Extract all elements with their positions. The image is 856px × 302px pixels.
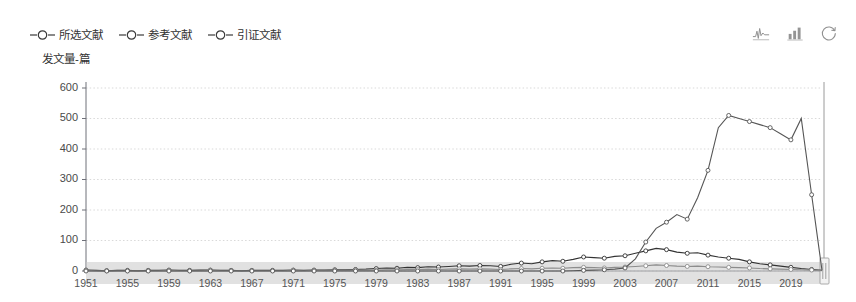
datazoom-slider[interactable] (86, 82, 829, 284)
data-point[interactable] (768, 263, 772, 267)
data-point[interactable] (436, 269, 440, 273)
y-axis-labels: 0100200300400500600 (60, 81, 78, 276)
data-point[interactable] (519, 269, 523, 273)
data-point[interactable] (623, 254, 627, 258)
data-point[interactable] (333, 269, 337, 273)
x-tick-label: 1975 (323, 277, 347, 289)
data-point[interactable] (271, 269, 275, 273)
data-point[interactable] (499, 269, 503, 273)
data-point[interactable] (810, 268, 814, 272)
data-point[interactable] (706, 253, 710, 257)
data-point[interactable] (582, 255, 586, 259)
data-point[interactable] (789, 138, 793, 142)
data-point[interactable] (747, 260, 751, 264)
data-point[interactable] (602, 268, 606, 272)
data-point[interactable] (747, 120, 751, 124)
data-point[interactable] (706, 265, 710, 269)
data-point[interactable] (105, 269, 109, 273)
data-point[interactable] (146, 269, 150, 273)
data-point[interactable] (188, 269, 192, 273)
x-tick-label: 1979 (365, 277, 389, 289)
x-tick-label: 2007 (655, 277, 679, 289)
data-point[interactable] (644, 249, 648, 253)
x-tick-label: 1951 (74, 277, 98, 289)
x-tick-label: 1995 (530, 277, 554, 289)
data-point[interactable] (727, 256, 731, 260)
x-tick-label: 1983 (406, 277, 430, 289)
x-tick-label: 2019 (779, 277, 803, 289)
data-point[interactable] (727, 113, 731, 117)
data-point[interactable] (561, 259, 565, 263)
x-tick-label: 2003 (613, 277, 637, 289)
data-point[interactable] (208, 269, 212, 273)
data-point[interactable] (810, 193, 814, 197)
axes (82, 82, 828, 271)
data-point[interactable] (582, 268, 586, 272)
data-point[interactable] (768, 267, 772, 271)
x-tick-label: 1971 (282, 277, 306, 289)
y-tick-label: 200 (60, 203, 78, 215)
x-tick-label: 1991 (489, 277, 513, 289)
x-tick-label: 1963 (199, 277, 223, 289)
data-point[interactable] (623, 266, 627, 270)
data-point[interactable] (229, 269, 233, 273)
data-point[interactable] (665, 220, 669, 224)
data-point[interactable] (706, 168, 710, 172)
data-point[interactable] (685, 264, 689, 268)
data-point[interactable] (747, 266, 751, 270)
x-tick-label: 2015 (738, 277, 762, 289)
data-point[interactable] (416, 269, 420, 273)
data-point[interactable] (644, 264, 648, 268)
x-tick-label: 2011 (697, 277, 720, 289)
data-point[interactable] (540, 260, 544, 264)
data-point[interactable] (540, 269, 544, 273)
data-point[interactable] (685, 251, 689, 255)
data-point[interactable] (602, 256, 606, 260)
data-point[interactable] (250, 269, 254, 273)
y-tick-label: 300 (60, 172, 78, 184)
data-point[interactable] (84, 269, 88, 273)
data-point[interactable] (727, 265, 731, 269)
data-point[interactable] (561, 269, 565, 273)
data-point[interactable] (374, 269, 378, 273)
x-tick-label: 1987 (448, 277, 472, 289)
chart-plot-area: 1951195519591963196719711975197919831987… (0, 0, 856, 302)
data-point[interactable] (665, 264, 669, 268)
y-tick-label: 0 (72, 264, 78, 276)
x-tick-label: 1955 (116, 277, 140, 289)
data-point[interactable] (478, 269, 482, 273)
gridlines (86, 88, 822, 271)
data-point[interactable] (312, 269, 316, 273)
data-point[interactable] (457, 269, 461, 273)
series-3 (84, 113, 822, 273)
data-point[interactable] (789, 267, 793, 271)
data-point[interactable] (125, 269, 129, 273)
data-point[interactable] (665, 248, 669, 252)
y-tick-label: 100 (60, 233, 78, 245)
data-point[interactable] (354, 269, 358, 273)
y-tick-label: 400 (60, 142, 78, 154)
series-group (84, 113, 822, 273)
data-point[interactable] (519, 261, 523, 265)
x-tick-label: 1999 (572, 277, 596, 289)
data-point[interactable] (167, 269, 171, 273)
y-tick-label: 500 (60, 111, 78, 123)
data-point[interactable] (685, 217, 689, 221)
publication-trend-chart-panel: 所选文献 参考文献 引证文献 (0, 0, 856, 302)
data-point[interactable] (395, 269, 399, 273)
data-point[interactable] (291, 269, 295, 273)
y-tick-label: 600 (60, 81, 78, 93)
data-point[interactable] (644, 240, 648, 244)
data-point[interactable] (768, 126, 772, 130)
x-tick-label: 1959 (157, 277, 181, 289)
x-tick-label: 1967 (240, 277, 264, 289)
